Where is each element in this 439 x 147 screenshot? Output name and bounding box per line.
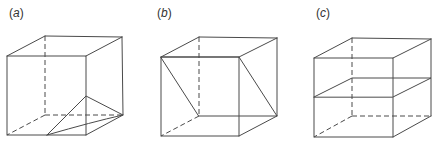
- cube-a: [7, 36, 123, 135]
- cube-b: [161, 37, 277, 136]
- hatched-plane-c: [314, 78, 431, 97]
- cube-diagrams: [0, 0, 439, 147]
- hatched-plane-b: [161, 57, 277, 116]
- cube-c: [314, 38, 431, 137]
